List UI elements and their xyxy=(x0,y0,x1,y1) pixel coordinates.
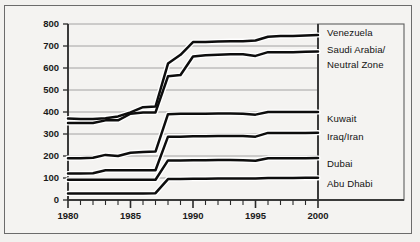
x-axis-tick-labels: 19801985199019952000 xyxy=(57,210,328,221)
y-tick-label: 800 xyxy=(43,18,59,29)
legend-label-saudi-arabia: Saudi Arabia/ xyxy=(327,44,386,55)
y-tick-label: 700 xyxy=(43,40,59,51)
y-tick-label: 500 xyxy=(43,84,59,95)
y-tick-label: 0 xyxy=(54,194,59,205)
legend-label-iraq-iran: Iraq/Iran xyxy=(327,131,364,142)
x-tick-label: 1995 xyxy=(245,210,267,221)
y-tick-label: 600 xyxy=(43,62,59,73)
series-halo xyxy=(68,35,318,119)
x-axis-ticks xyxy=(68,200,318,208)
x-tick-label: 1985 xyxy=(120,210,142,221)
chart-figure: 0100200300400500600700800 19801985199019… xyxy=(0,0,420,242)
y-tick-label: 300 xyxy=(43,128,59,139)
data-series-group xyxy=(68,35,318,193)
y-axis-tick-labels: 0100200300400500600700800 xyxy=(43,18,59,205)
x-tick-label: 1990 xyxy=(182,210,203,221)
legend-label-dubai: Dubai xyxy=(327,158,353,169)
x-tick-label: 1980 xyxy=(57,210,78,221)
series-line-venezuela xyxy=(68,35,318,119)
legend-label-kuwait: Kuwait xyxy=(327,113,357,124)
line-chart: 0100200300400500600700800 19801985199019… xyxy=(0,0,420,242)
x-tick-label: 2000 xyxy=(307,210,328,221)
legend-label-venezuela: Venezuela xyxy=(327,27,373,38)
legend-label-abu-dhabi: Abu Dhabi xyxy=(327,178,373,189)
legend-labels: VenezuelaSaudi Arabia/Neutral ZoneKuwait… xyxy=(327,27,386,189)
y-tick-label: 100 xyxy=(43,172,59,183)
y-tick-label: 400 xyxy=(43,106,59,117)
legend-label-neutral-zone: Neutral Zone xyxy=(327,59,384,70)
y-tick-label: 200 xyxy=(43,150,59,161)
